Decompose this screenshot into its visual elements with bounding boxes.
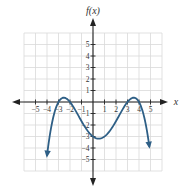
y-tick-label: −4 [82, 144, 90, 153]
x-axis-label: x [173, 96, 179, 107]
x-tick-label: −4 [43, 105, 51, 114]
x-tick-label: 2 [114, 105, 118, 114]
y-tick-label: −1 [82, 109, 90, 118]
y-axis-label: f(x) [86, 5, 101, 17]
x-axis-left-arrow-icon [12, 99, 20, 105]
y-tick-label: −3 [82, 132, 90, 141]
y-axis-up-arrow-icon [90, 18, 96, 26]
curve-left-arrow-icon [44, 150, 50, 157]
y-tick-label: 3 [86, 63, 90, 72]
y-axis-down-arrow-icon [90, 178, 96, 186]
y-tick-label: 1 [86, 86, 90, 95]
x-tick-label: 3 [126, 105, 130, 114]
x-tick-label: −5 [32, 105, 40, 114]
y-tick-label: 4 [86, 52, 90, 61]
y-tick-label: −5 [82, 155, 90, 164]
y-tick-label: 2 [86, 75, 90, 84]
polynomial-graph: −5−4−3−2−112345−5−4−3−2−112345 f(x) x [0, 0, 187, 193]
x-axis-right-arrow-icon [160, 99, 168, 105]
y-tick-label: 5 [86, 40, 90, 49]
x-tick-label: 5 [149, 105, 153, 114]
x-tick-label: 1 [103, 105, 107, 114]
